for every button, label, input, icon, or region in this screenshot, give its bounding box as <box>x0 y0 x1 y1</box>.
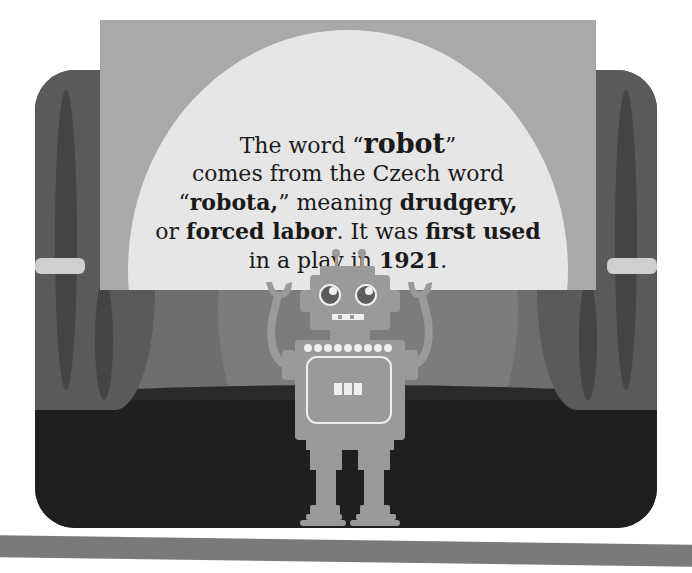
robot-icon <box>0 0 692 573</box>
